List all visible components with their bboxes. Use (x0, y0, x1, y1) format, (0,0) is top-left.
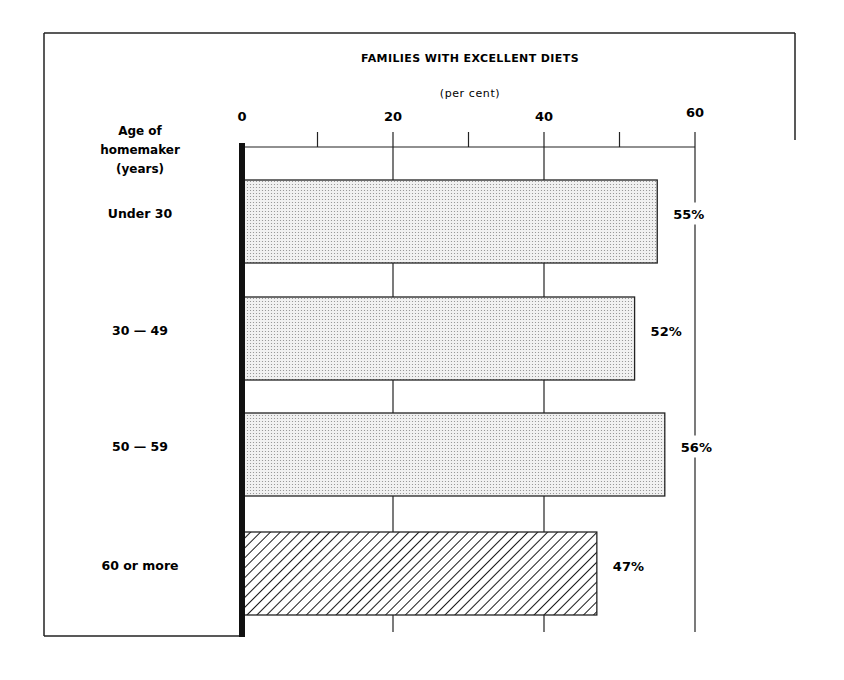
category-label: 30 — 49 (112, 323, 168, 338)
value-label: 52% (651, 324, 682, 339)
x-tick-label: 0 (237, 109, 246, 124)
bar (242, 413, 665, 496)
category-labels: Under 3030 — 4950 — 5960 or more (101, 206, 178, 573)
bar (242, 297, 635, 380)
y-axis-header: Age of homemaker (years) (100, 124, 180, 176)
value-label: 55% (673, 207, 704, 222)
x-tick-label: 40 (535, 109, 553, 124)
chart-title: FAMILIES WITH EXCELLENT DIETS (361, 52, 579, 65)
value-label: 47% (613, 559, 644, 574)
y-label-line-2: homemaker (100, 143, 180, 157)
x-axis: 0204060 (237, 105, 704, 147)
bars (242, 180, 665, 615)
bar (242, 532, 597, 615)
bar-chart: FAMILIES WITH EXCELLENT DIETS (per cent)… (0, 0, 844, 680)
y-label-line-1: Age of (118, 124, 162, 138)
category-label: Under 30 (108, 206, 173, 221)
chart-subtitle: (per cent) (440, 87, 500, 100)
x-tick-label: 60 (686, 105, 704, 120)
value-label: 56% (681, 440, 712, 455)
category-label: 60 or more (101, 558, 178, 573)
x-tick-label: 20 (384, 109, 402, 124)
category-label: 50 — 59 (112, 439, 168, 454)
bar (242, 180, 657, 263)
zero-baseline (239, 143, 245, 637)
y-label-line-3: (years) (116, 162, 164, 176)
